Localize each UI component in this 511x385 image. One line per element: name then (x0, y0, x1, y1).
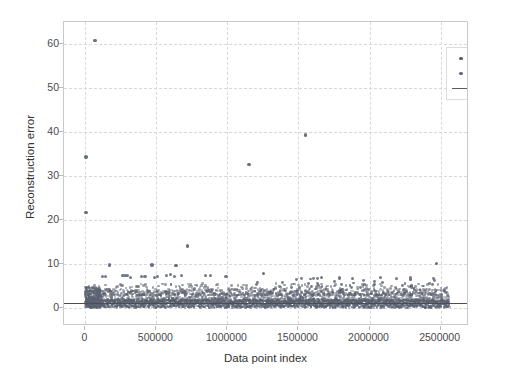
data-point (152, 286, 155, 289)
data-point (179, 286, 182, 289)
data-point (338, 276, 341, 279)
data-point (410, 284, 413, 287)
x-axis-label: Data point index (63, 352, 468, 364)
data-point (389, 287, 392, 290)
data-point (235, 288, 238, 291)
data-point (206, 286, 209, 289)
data-point (262, 272, 266, 276)
legend-item-threshold[interactable]: Threshold (449, 81, 468, 96)
data-point (108, 263, 112, 267)
threshold-line (64, 303, 468, 304)
data-point (209, 274, 212, 277)
data-point (255, 299, 257, 301)
y-tick-label: 0 (25, 302, 59, 312)
x-tick-mark (297, 326, 298, 330)
data-point (320, 276, 323, 279)
data-point (278, 285, 281, 288)
data-point (448, 295, 450, 297)
chart-legend: NormalAttackThreshold (446, 47, 468, 100)
x-tick-mark (369, 326, 370, 330)
data-point (122, 284, 125, 287)
x-axis-tick-labels: 05000001000000150000020000002500000 (63, 331, 468, 347)
data-point (204, 274, 207, 277)
data-point (431, 283, 434, 286)
data-point (237, 284, 240, 287)
data-point (157, 285, 160, 288)
data-point (422, 285, 425, 288)
data-point (334, 283, 337, 286)
data-point (286, 287, 289, 290)
data-point (300, 277, 303, 280)
data-point (255, 283, 258, 286)
data-point (84, 155, 88, 159)
data-point (346, 288, 348, 290)
data-point (390, 285, 393, 288)
data-point (405, 290, 408, 293)
data-point (143, 275, 146, 278)
data-point (211, 288, 214, 291)
legend-item-normal[interactable]: Normal (449, 51, 468, 66)
data-point (404, 282, 407, 285)
data-point (401, 284, 404, 287)
data-point (247, 163, 251, 167)
data-point (381, 281, 384, 284)
data-point (173, 275, 176, 278)
data-point (424, 293, 426, 295)
data-point (150, 263, 154, 267)
data-point (365, 287, 368, 290)
y-tick-label: 30 (25, 170, 59, 180)
data-point (93, 39, 97, 43)
legend-line-icon (449, 88, 468, 89)
data-point (384, 293, 387, 296)
data-point (395, 277, 398, 280)
data-point (312, 277, 315, 280)
data-point (316, 277, 319, 280)
data-point (306, 306, 308, 308)
data-point (399, 288, 402, 291)
data-point (359, 286, 362, 289)
data-point (104, 284, 107, 287)
data-point (165, 274, 168, 277)
data-point (197, 292, 200, 295)
data-point (84, 211, 88, 215)
data-point (86, 288, 88, 290)
data-point (196, 284, 199, 287)
data-point (436, 294, 439, 297)
x-tick-label: 2000000 (348, 331, 389, 343)
data-point (181, 284, 184, 287)
legend-item-attack[interactable]: Attack (449, 66, 468, 81)
data-point (241, 287, 244, 290)
legend-dot-icon-glyph (459, 72, 463, 76)
legend-line-icon-glyph (452, 88, 468, 89)
x-tick-mark (155, 326, 156, 330)
data-point (301, 284, 304, 287)
data-point (135, 290, 138, 293)
data-point (310, 285, 313, 288)
data-point (156, 275, 159, 278)
data-point (104, 275, 107, 278)
data-point (97, 290, 99, 292)
x-tick-label: 1000000 (206, 331, 247, 343)
data-point (284, 290, 287, 293)
data-point (174, 264, 178, 268)
legend-dot-icon (449, 72, 468, 76)
y-tick-label: 40 (25, 126, 59, 136)
data-point (274, 286, 277, 289)
scatter-chart-figure: Reconstruction error 0102030405060 Norma… (0, 0, 511, 385)
data-point (244, 293, 247, 296)
data-point (184, 306, 186, 308)
data-point (340, 283, 343, 286)
data-point (216, 283, 219, 286)
data-point (383, 286, 386, 289)
data-point (309, 278, 312, 281)
data-point (103, 294, 106, 297)
data-point (439, 289, 442, 292)
data-point (317, 293, 320, 296)
data-point (169, 273, 172, 276)
data-point (293, 283, 296, 286)
y-tick-label: 10 (25, 258, 59, 268)
data-point (361, 290, 364, 293)
data-point (281, 281, 284, 284)
data-points-canvas (64, 22, 467, 324)
data-point (283, 284, 286, 287)
